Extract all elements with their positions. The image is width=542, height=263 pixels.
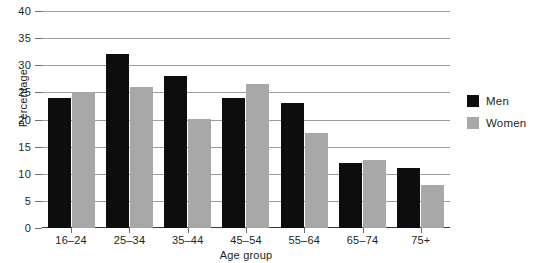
bar-men [106,54,129,228]
x-tick-mark [421,228,422,233]
x-tick-mark [71,228,72,233]
y-tick-label: 15 [18,139,31,155]
y-tick-mark [35,120,42,121]
legend-swatch-icon [467,95,479,107]
plot-area [42,11,450,228]
x-tick-label: 75+ [392,234,450,246]
y-tick-mark [35,92,42,93]
y-tick-label: 40 [18,3,31,19]
y-tick-mark [35,38,42,39]
bar-women [130,87,153,228]
x-tick-mark [304,228,305,233]
y-axis-ticks: 4035302520151050 [0,11,42,228]
x-tick-label: 65–74 [333,234,391,246]
x-tick-label: 25–34 [100,234,158,246]
y-tick-mark [35,174,42,175]
x-tick-mark [363,228,364,233]
legend: MenWomen [467,90,526,134]
legend-item-men[interactable]: Men [467,90,526,112]
y-tick-mark [35,228,42,229]
x-tick-mark [188,228,189,233]
y-tick-label: 10 [18,166,31,182]
bar-men [281,103,304,228]
y-tick-mark [35,147,42,148]
x-tick-label: 55–64 [275,234,333,246]
legend-label: Men [486,95,509,107]
y-tick-label: 5 [25,193,31,209]
bar-women [421,185,444,228]
x-tick-mark [246,228,247,233]
bar-chart: Percentage 4035302520151050 16–2425–3435… [0,0,542,263]
x-axis-labels: 16–2425–3435–4445–5455–6465–7475+ [42,234,450,246]
bar-men [164,76,187,228]
x-axis-title: Age group [42,249,450,261]
bar-men [222,98,245,228]
y-tick-mark [35,11,42,12]
x-tick-label: 16–24 [42,234,100,246]
x-tick-label: 35–44 [159,234,217,246]
bar-groups [42,11,450,228]
bar-women [188,119,211,228]
bar-group [275,11,333,228]
bar-women [72,92,95,228]
bar-group [100,11,158,228]
legend-label: Women [486,117,526,129]
legend-item-women[interactable]: Women [467,112,526,134]
x-tick-mark [129,228,130,233]
bar-women [246,84,269,228]
y-tick-mark [35,201,42,202]
bar-men [339,163,362,228]
bar-group [392,11,450,228]
y-tick-label: 0 [25,220,31,236]
bar-group [159,11,217,228]
y-tick-label: 35 [18,30,31,46]
bar-women [363,160,386,228]
bar-men [48,98,71,228]
bar-group [42,11,100,228]
y-tick-label: 25 [18,84,31,100]
bar-men [397,168,420,228]
y-tick-label: 30 [18,57,31,73]
bar-group [217,11,275,228]
y-tick-label: 20 [18,112,31,128]
bar-women [305,133,328,228]
x-tick-label: 45–54 [217,234,275,246]
legend-swatch-icon [467,117,479,129]
y-tick-mark [35,65,42,66]
bar-group [333,11,391,228]
